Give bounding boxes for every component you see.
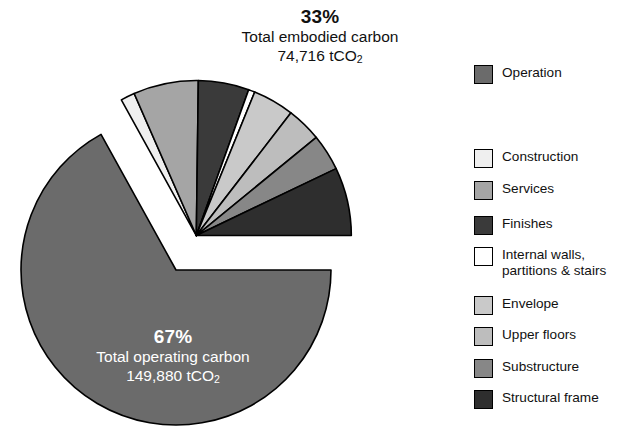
legend-swatch-icon: [474, 149, 493, 168]
legend-item-upper[interactable]: Upper floors: [474, 326, 576, 346]
legend-swatch-icon: [474, 247, 493, 266]
legend-swatch-icon: [474, 65, 493, 84]
embodied-value-number: 74,716 tCO: [277, 47, 356, 64]
legend-swatch-icon: [474, 327, 493, 346]
operating-value-label: 149,880 tCO2: [48, 367, 298, 385]
legend-swatch-icon: [474, 181, 493, 200]
legend-swatch-icon: [474, 359, 493, 378]
legend-item-internal[interactable]: Internal walls, partitions & stairs: [474, 246, 606, 278]
legend-item-structural[interactable]: Structural frame: [474, 389, 599, 409]
legend-item-label: Services: [502, 180, 554, 197]
legend-swatch-icon: [474, 216, 493, 235]
legend-item-label: Finishes: [502, 215, 553, 232]
legend-item-finishes[interactable]: Finishes: [474, 215, 553, 235]
operating-title-label: Total operating carbon: [48, 348, 298, 366]
embodied-carbon-callout: 33% Total embodied carbon 74,716 tCO2: [200, 6, 440, 65]
legend-item-operation[interactable]: Operation: [474, 64, 562, 84]
legend-swatch-icon: [474, 390, 493, 409]
operating-value-subscript: 2: [214, 373, 220, 385]
embodied-percent-label: 33%: [200, 6, 440, 28]
operating-value-number: 149,880 tCO: [126, 367, 214, 384]
legend-item-envelope[interactable]: Envelope: [474, 295, 559, 315]
legend-item-construction[interactable]: Construction: [474, 148, 578, 168]
operating-percent-label: 67%: [48, 326, 298, 348]
legend-item-label: Upper floors: [502, 326, 576, 343]
legend-item-label: Internal walls, partitions & stairs: [502, 246, 606, 278]
legend-item-label: Substructure: [502, 358, 579, 375]
legend-item-services[interactable]: Services: [474, 180, 554, 200]
legend-item-label: Structural frame: [502, 389, 599, 406]
legend-item-label: Envelope: [502, 295, 559, 312]
legend-item-label: Construction: [502, 148, 578, 165]
embodied-title-label: Total embodied carbon: [200, 28, 440, 46]
legend-item-substructure[interactable]: Substructure: [474, 358, 579, 378]
operating-carbon-callout: 67% Total operating carbon 149,880 tCO2: [48, 326, 298, 385]
legend-item-label: Operation: [502, 64, 562, 81]
embodied-value-subscript: 2: [357, 53, 363, 65]
embodied-value-label: 74,716 tCO2: [200, 47, 440, 65]
legend-swatch-icon: [474, 296, 493, 315]
